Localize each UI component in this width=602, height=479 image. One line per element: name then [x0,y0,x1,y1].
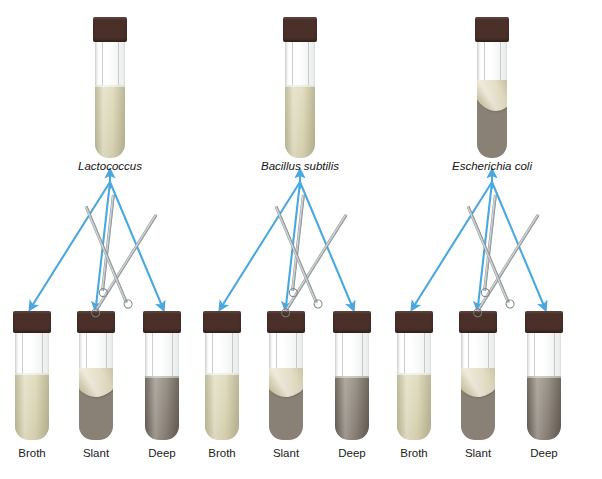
media-slant [269,368,303,440]
tube-label-escherichia-coli-deep: Deep [484,447,602,459]
target-tube-bacillus-subtilis-slant [269,312,303,440]
tube-cap [333,311,371,333]
target-tube-lactococcus-slant [79,312,113,440]
media-deep [527,376,561,440]
tube-cap [13,311,51,333]
media-broth [205,373,239,440]
slant-surface [461,368,495,405]
source-tube-escherichia-coli [477,18,507,158]
tube-cap [203,311,241,333]
tube-cap [395,311,433,333]
tube-cap [93,17,127,42]
species-label-bacillus-subtilis: Bacillus subtilis [240,160,360,172]
media-deep [145,376,179,440]
media-slant [477,80,507,158]
media-broth [95,85,125,158]
media-slant [461,368,495,440]
source-tube-bacillus-subtilis [285,18,315,158]
target-tube-bacillus-subtilis-broth [205,312,239,440]
tube-cap [475,17,509,42]
media-deep [335,376,369,440]
target-tube-lactococcus-broth [15,312,49,440]
slant-surface [477,80,507,118]
slant-surface [79,368,113,405]
tube-cap [525,311,563,333]
target-tube-escherichia-coli-deep [527,312,561,440]
target-tube-lactococcus-deep [145,312,179,440]
target-tube-escherichia-coli-broth [397,312,431,440]
species-label-lactococcus: Lactococcus [50,160,170,172]
media-broth [397,373,431,440]
source-tube-lactococcus [95,18,125,158]
species-label-escherichia-coli: Escherichia coli [432,160,552,172]
media-slant [79,368,113,440]
media-broth [15,373,49,440]
tube-cap [143,311,181,333]
media-broth [285,85,315,158]
figure-canvas: LactococcusBrothSlantDeepBacillus subtil… [0,0,602,479]
target-tube-escherichia-coli-slant [461,312,495,440]
slant-surface [269,368,303,405]
target-tube-bacillus-subtilis-deep [335,312,369,440]
tube-cap [283,17,317,42]
